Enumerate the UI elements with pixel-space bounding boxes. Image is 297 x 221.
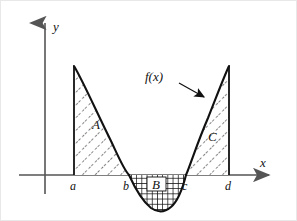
x-axis-label: x [259, 155, 266, 170]
region-C-hatch [176, 51, 266, 191]
region-A-group [61, 51, 151, 191]
figure-container: f(x) y x a b c d A B C [0, 0, 297, 221]
region-C-group [176, 51, 266, 191]
tick-label-d: d [225, 179, 232, 193]
tick-label-c: c [182, 179, 188, 193]
axes-group [19, 23, 269, 194]
function-label: f(x) [145, 69, 163, 84]
tick-label-a: a [70, 179, 76, 193]
tick-label-b: b [123, 179, 129, 193]
region-label-B: B [152, 177, 160, 192]
y-axis-label: y [51, 19, 59, 34]
signed-area-figure: f(x) y x a b c d A B C [1, 1, 297, 221]
region-label-A: A [91, 117, 100, 132]
region-label-C: C [208, 129, 217, 144]
function-callout-arrow [179, 83, 204, 97]
